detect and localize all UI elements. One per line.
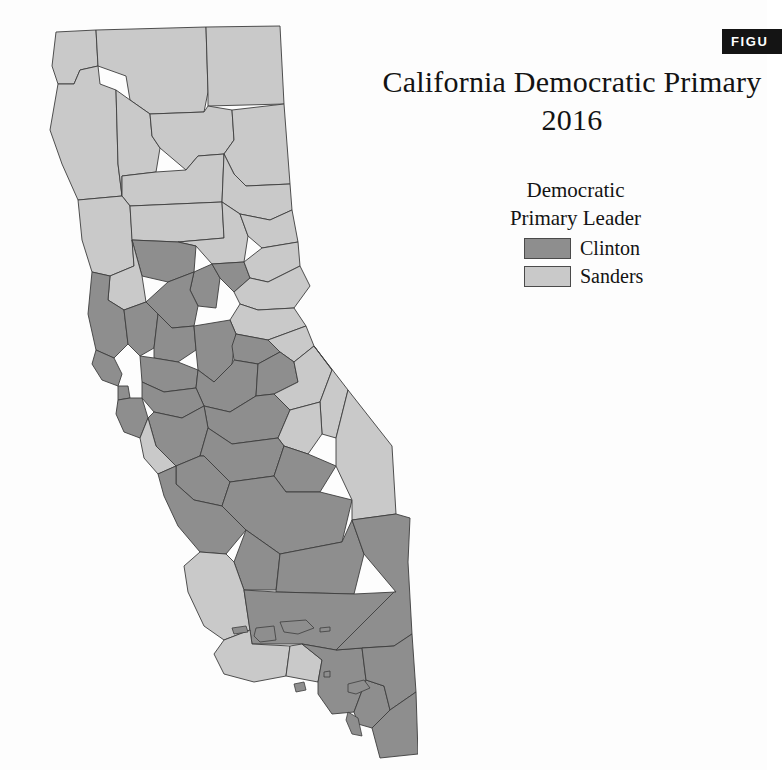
legend-item-sanders: Sanders (524, 264, 683, 289)
island-santa-barbara-island (324, 671, 330, 677)
legend-title: Democratic Primary Leader (468, 176, 683, 232)
legend-swatch-clinton (524, 238, 571, 259)
county-layer (50, 26, 418, 758)
legend-label-sanders: Sanders (580, 266, 643, 287)
county-modoc (206, 26, 284, 106)
title-line-primary: California Democratic Primary (372, 63, 772, 101)
island-santa-rosa (254, 626, 276, 642)
map-legend: Democratic Primary Leader Clinton Sander… (468, 176, 683, 292)
island-san-nicolas (294, 682, 306, 692)
legend-title-line-1: Democratic (468, 176, 683, 204)
county-glenn (130, 202, 224, 242)
figure-number-tag: FIGU (722, 29, 782, 54)
island-anacapa (320, 627, 330, 632)
legend-entry-list: Clinton Sanders (468, 236, 683, 289)
figure-title: California Democratic Primary 2016 (372, 63, 772, 139)
county-marin (92, 350, 122, 386)
legend-label-clinton: Clinton (580, 238, 640, 259)
california-county-map (18, 14, 418, 764)
county-mendocino (78, 196, 134, 276)
county-napa (124, 302, 158, 356)
title-line-year: 2016 (372, 101, 772, 139)
county-humboldt (50, 66, 122, 200)
california-map-svg (18, 14, 418, 764)
legend-item-clinton: Clinton (524, 236, 683, 261)
county-madera (274, 446, 336, 492)
legend-swatch-sanders (524, 266, 571, 287)
legend-title-line-2: Primary Leader (468, 204, 683, 232)
